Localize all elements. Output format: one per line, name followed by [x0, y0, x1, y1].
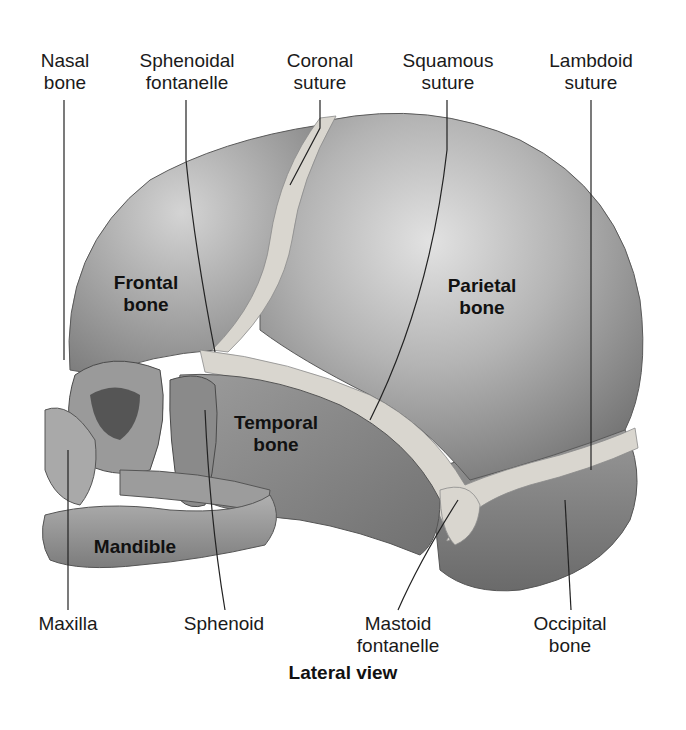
label-nasal-bone: Nasal bone	[28, 50, 102, 94]
label-parietal-bone: Parietal bone	[434, 275, 530, 319]
label-temporal-bone: Temporal bone	[222, 412, 330, 456]
label-squamous-suture: Squamous suture	[395, 50, 501, 94]
label-mandible: Mandible	[82, 536, 188, 558]
label-coronal-suture: Coronal suture	[275, 50, 365, 94]
label-mastoid-fontanelle: Mastoid fontanelle	[346, 613, 450, 657]
label-lambdoid-suture: Lambdoid suture	[535, 50, 647, 94]
fetal-skull-diagram: Nasal bone Sphenoidal fontanelle Coronal…	[0, 0, 686, 730]
label-sphenoid: Sphenoid	[172, 613, 276, 635]
label-sphenoidal-fontanelle: Sphenoidal fontanelle	[128, 50, 246, 94]
label-frontal-bone: Frontal bone	[100, 272, 192, 316]
caption-lateral-view: Lateral view	[0, 662, 686, 684]
label-maxilla: Maxilla	[28, 613, 108, 635]
label-occipital-bone: Occipital bone	[522, 613, 618, 657]
